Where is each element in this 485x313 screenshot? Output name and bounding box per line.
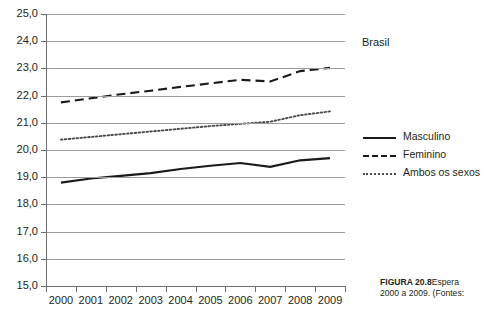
legend-item-feminino: Feminino bbox=[363, 147, 469, 165]
y-axis-tick bbox=[41, 204, 47, 205]
caption-figure-number: FIGURA 20.8 bbox=[380, 277, 432, 287]
y-axis-label: 25,0 bbox=[0, 8, 38, 19]
x-axis-tick bbox=[285, 287, 286, 292]
legend-label-ambos-os-sexos: Ambos os sexos bbox=[403, 166, 480, 179]
brasil-annotation: Brasil bbox=[362, 36, 390, 48]
x-axis-label: 2009 bbox=[310, 294, 350, 306]
gridline bbox=[46, 123, 345, 124]
gridline bbox=[46, 177, 345, 178]
legend-swatch-solid-line-icon bbox=[363, 137, 396, 139]
gridline bbox=[46, 204, 345, 205]
caption-line-1-text: Espera bbox=[432, 277, 459, 287]
x-axis-tick bbox=[196, 287, 197, 292]
gridline bbox=[46, 41, 345, 42]
y-axis-label: 16,0 bbox=[0, 253, 38, 264]
y-axis-tick bbox=[41, 150, 47, 151]
x-axis-tick bbox=[76, 287, 77, 292]
x-axis-tick bbox=[46, 287, 47, 292]
gridline bbox=[46, 68, 345, 69]
figure-caption: FIGURA 20.8Espera 2000 a 2009. (Fontes: bbox=[380, 277, 485, 299]
series-line-ambos-os-sexos bbox=[61, 111, 330, 139]
x-axis-tick bbox=[136, 287, 137, 292]
y-axis-label: 15,0 bbox=[0, 280, 38, 291]
gridline bbox=[46, 259, 345, 260]
x-axis-tick bbox=[106, 287, 107, 292]
y-axis-tick bbox=[41, 177, 47, 178]
y-axis-tick bbox=[41, 14, 47, 15]
y-axis-tick bbox=[41, 96, 47, 97]
legend-item-masculino: Masculino bbox=[363, 129, 469, 147]
x-axis-tick bbox=[225, 287, 226, 292]
gridline bbox=[46, 232, 345, 233]
x-axis-tick bbox=[255, 287, 256, 292]
legend-item-ambos-os-sexos: Ambos os sexos bbox=[363, 165, 469, 183]
legend-label-masculino: Masculino bbox=[403, 130, 450, 143]
y-axis-tick bbox=[41, 123, 47, 124]
y-axis-label: 22,0 bbox=[0, 90, 38, 101]
caption-line-2: 2000 a 2009. (Fontes: bbox=[380, 288, 485, 299]
y-axis-tick bbox=[41, 68, 47, 69]
series-line-masculino bbox=[61, 158, 330, 182]
y-axis-tick bbox=[41, 232, 47, 233]
series-line-feminino bbox=[61, 68, 330, 103]
x-axis-tick bbox=[315, 287, 316, 292]
x-axis-tick bbox=[166, 287, 167, 292]
y-axis-label: 24,0 bbox=[0, 35, 38, 46]
gridline bbox=[46, 14, 345, 15]
gridline bbox=[46, 150, 345, 151]
y-axis-tick bbox=[41, 259, 47, 260]
y-axis-label: 18,0 bbox=[0, 198, 38, 209]
y-axis-tick bbox=[41, 41, 47, 42]
legend-swatch-dotted-line-icon bbox=[363, 173, 396, 175]
chart-legend: Masculino Feminino Ambos os sexos bbox=[363, 129, 469, 183]
y-axis-label: 19,0 bbox=[0, 171, 38, 182]
y-axis-label: 20,0 bbox=[0, 144, 38, 155]
y-axis-label: 21,0 bbox=[0, 117, 38, 128]
caption-line-1: FIGURA 20.8Espera bbox=[380, 277, 485, 288]
legend-swatch-dashed-line-icon bbox=[363, 155, 396, 157]
plot-area bbox=[46, 14, 345, 286]
y-axis-label: 17,0 bbox=[0, 226, 38, 237]
legend-label-feminino: Feminino bbox=[403, 148, 446, 161]
gridline bbox=[46, 96, 345, 97]
x-axis-tick bbox=[345, 287, 346, 292]
y-axis-label: 23,0 bbox=[0, 62, 38, 73]
